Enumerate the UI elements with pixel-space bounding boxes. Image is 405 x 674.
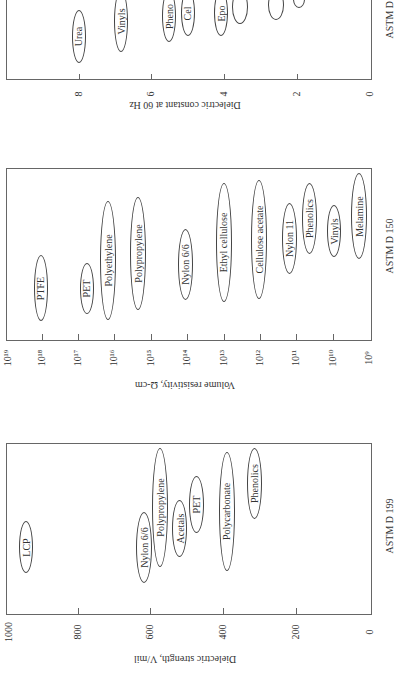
material-ellipse: Phenolics [247, 448, 262, 519]
material-label: Phenolics [304, 199, 315, 238]
tick-label: 600 [144, 612, 156, 652]
material-label: Melamine [354, 196, 365, 237]
material-ellipse: Polypropylene [152, 448, 168, 567]
tick-label: 0 [364, 74, 376, 114]
tick-label: 10¹¹ [290, 338, 302, 378]
tick-label: 0 [364, 612, 376, 652]
material-ellipse: Vinyls [327, 205, 341, 257]
axis-title: Volume resistivity, Ω-cm [125, 380, 245, 391]
tick-label: 10¹⁹ [2, 338, 14, 378]
material-ellipse: PET [80, 263, 94, 314]
material-label: Polyethylene [103, 234, 114, 286]
tick-label: 10¹⁷ [72, 338, 84, 378]
standard-label: ASTM D 150 [384, 201, 396, 291]
tick-label: 10¹⁴ [181, 338, 193, 378]
material-ellipse: Acetals [172, 500, 187, 557]
material-label: Ethyl cellulose [219, 213, 230, 273]
tick-label: 400 [217, 612, 229, 652]
material-ellipse: Ethyl cellulose [216, 183, 232, 302]
material-ellipse: Melamine [351, 173, 367, 259]
material-label: Polycarbonate [222, 483, 233, 540]
material-ellipse: Urea [72, 10, 86, 63]
material-label: Phenolics [249, 464, 260, 503]
material-label: Nylon 6/6 [139, 527, 150, 567]
material-ellipse: Polyethylene [100, 201, 116, 320]
material-label: Epo [216, 5, 227, 21]
tick-label: 10¹⁶ [108, 338, 120, 378]
tick-label: 1000 [3, 612, 15, 652]
axis-title: Dielectric strength, V/mil [125, 654, 245, 665]
material-label: Acetals [174, 514, 185, 544]
material-ellipse: Nylon 6/6 [136, 512, 152, 583]
material-ellipse: Polypropylene [130, 197, 146, 310]
material-ellipse: PET [189, 476, 204, 533]
material-label: Cel [183, 6, 194, 20]
tick-label: 10¹⁸ [36, 338, 48, 378]
material-label: LCP [21, 538, 32, 556]
tick-label: 8 [73, 74, 85, 114]
material-ellipse: Nylon 11 [282, 203, 297, 274]
tick-label: 10¹⁵ [145, 338, 157, 378]
material-label: Cellulose acetate [254, 205, 265, 273]
tick-label: 2 [291, 74, 303, 114]
tick-label: 10¹² [254, 338, 266, 378]
material-ellipse: Cellulose acetate [251, 180, 267, 299]
material-label: PET [82, 280, 93, 298]
tick-label: 10¹⁰ [327, 338, 339, 378]
material-label: Polypropylene [133, 224, 144, 282]
tick-label: 200 [290, 612, 302, 652]
axis-title: Dielectric constant at 60 Hz [120, 100, 250, 111]
material-label: PTFE [36, 276, 47, 299]
material-ellipse: LCP [19, 521, 33, 573]
material-label: Vinyls [329, 218, 340, 244]
material-ellipse: Nylon 6/6 [178, 229, 193, 300]
tick-label: 10¹³ [218, 338, 230, 378]
material-label: Polypropylene [155, 478, 166, 536]
tick-label: 800 [72, 612, 84, 652]
material-label: PET [191, 496, 202, 514]
material-label: Vinyls [116, 8, 127, 34]
material-label: Nylon 11 [284, 220, 295, 257]
material-ellipse: Phenolics [302, 183, 317, 254]
material-label: Urea [74, 27, 85, 46]
tick-label: 10⁹ [363, 338, 375, 378]
material-ellipse: Polycarbonate [219, 452, 235, 571]
plot-frame [6, 443, 372, 615]
standard-label: ASTM D 150 [384, 0, 396, 56]
material-ellipse: PTFE [34, 255, 48, 321]
material-label: Nylon 6/6 [180, 244, 191, 284]
material-label: Pheno [164, 4, 175, 29]
standard-label: ASTM D 199 [384, 481, 396, 571]
